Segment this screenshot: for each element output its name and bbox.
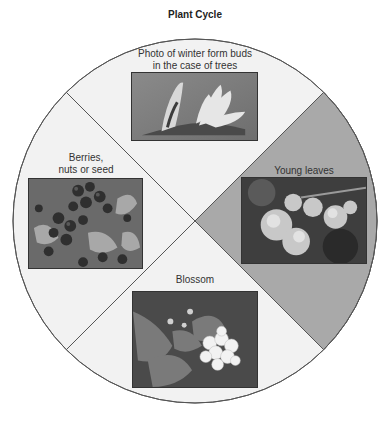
segment-label-berries: Berries, nuts or seed <box>30 152 142 176</box>
berries-photo <box>28 178 143 269</box>
blossom-photo <box>132 291 258 388</box>
label-line: Young leaves <box>241 165 367 177</box>
young-leaves-photo <box>241 177 367 264</box>
label-line: Blossom <box>132 274 258 286</box>
label-line: nuts or seed <box>30 164 142 176</box>
label-line: Photo of winter form buds <box>120 48 270 60</box>
segment-label-blossom: Blossom <box>132 274 258 286</box>
label-line: in the case of trees <box>120 60 270 72</box>
segment-label-young-leaves: Young leaves <box>241 165 367 177</box>
label-line: Berries, <box>30 152 142 164</box>
segment-label-winter-buds: Photo of winter form buds in the case of… <box>120 48 270 72</box>
winter-buds-photo <box>131 72 258 141</box>
